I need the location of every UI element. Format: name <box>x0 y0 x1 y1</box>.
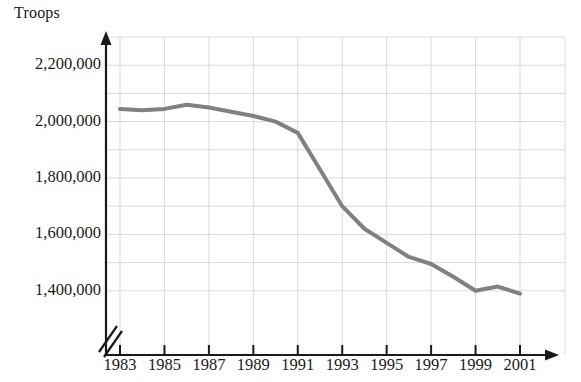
x-tick-label: 1993 <box>318 355 366 375</box>
axes <box>101 31 560 361</box>
y-tick-label: 1,800,000 <box>35 167 101 187</box>
y-tick-label: 2,000,000 <box>35 111 101 131</box>
x-tick-label: 1999 <box>452 355 500 375</box>
y-tick-label: 1,600,000 <box>35 223 101 243</box>
data-line <box>120 105 520 294</box>
x-tick-label: 1983 <box>96 355 144 375</box>
troops-line-chart: Troops 2,200,0002,000,0001,800,0001,600,… <box>0 0 581 382</box>
tick-marks <box>120 345 520 355</box>
x-tick-label: 1989 <box>229 355 277 375</box>
x-tick-label: 2001 <box>496 355 544 375</box>
x-axis-labels: 1983198519871989199119931995199719992001 <box>0 355 581 382</box>
x-tick-label: 1985 <box>140 355 188 375</box>
y-tick-label: 1,400,000 <box>35 280 101 300</box>
x-tick-label: 1997 <box>407 355 455 375</box>
axis-break-icon <box>99 326 122 357</box>
x-tick-label: 1995 <box>363 355 411 375</box>
y-tick-label: 2,200,000 <box>35 54 101 74</box>
x-tick-label: 1987 <box>185 355 233 375</box>
x-tick-label: 1991 <box>274 355 322 375</box>
y-axis-labels: 2,200,0002,000,0001,800,0001,600,0001,40… <box>0 0 101 382</box>
